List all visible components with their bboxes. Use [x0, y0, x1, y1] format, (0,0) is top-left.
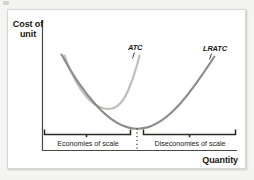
lratc-curve [62, 55, 215, 129]
axis-lines [42, 21, 237, 151]
label-leader-lines [133, 53, 212, 60]
lratc-curve-label: LRATC [203, 44, 227, 53]
economies-bracket [45, 130, 131, 138]
x-axis-title: Quantity [186, 155, 238, 165]
diseconomies-of-scale-label: Diseconomies of scale [142, 139, 238, 148]
atc-curve [65, 56, 140, 109]
figure-root: Cost of unit Quantity ATC LRATC Economie… [0, 0, 254, 180]
economies-of-scale-label: Economies of scale [42, 139, 134, 148]
atc-curve-label: ATC [128, 43, 142, 52]
lratc-leader-line [210, 54, 212, 60]
diseconomies-bracket [144, 130, 236, 138]
atc-leader-line [133, 53, 135, 59]
y-axis-title: Cost of unit [12, 19, 44, 39]
